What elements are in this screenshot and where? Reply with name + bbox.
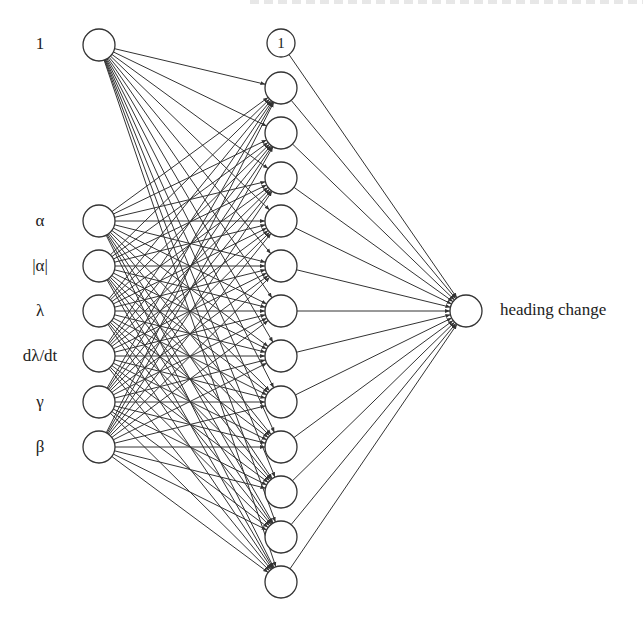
hidden-node [265,72,297,104]
edge-input-hidden [112,97,268,211]
output-label: heading change [500,300,606,320]
edge-hidden-output [294,187,453,301]
hidden-node [265,117,297,149]
input-bias-label: 1 [0,34,80,54]
output-node [450,295,482,327]
edge-hidden-output [297,270,451,307]
edge-hidden-output [297,315,451,352]
edge-hidden-output [293,144,455,300]
edge-input-hidden [108,101,272,343]
hidden-node [265,566,297,598]
input-label: γ [0,392,80,412]
input-label: |α| [0,256,80,276]
hidden-node [265,162,297,194]
edge-hidden-output [291,100,456,298]
input-label: β [0,437,80,457]
hidden-node [265,386,297,418]
edge-hidden-output [290,324,457,569]
edge-hidden-output [294,320,453,437]
input-node [83,386,115,418]
input-node [83,250,115,282]
input-node [83,431,115,463]
edge-input-hidden [108,58,272,298]
input-label: α [0,211,80,231]
hidden-node [265,476,297,508]
hidden-node [265,340,297,372]
edge-hidden-output [291,323,456,524]
edge-input-hidden [106,102,274,432]
edge-input-hidden [106,59,273,387]
edge-input-hidden [106,60,275,433]
input-node [83,340,115,372]
hidden-node [265,431,297,463]
input-label: λ [0,301,80,321]
hidden-bias-label: 1 [267,33,295,53]
input-node [83,295,115,327]
input-node [83,205,115,237]
edge-input-hidden [115,49,266,85]
hidden-node [265,521,297,553]
edge-input-hidden [107,59,273,342]
edge-input-hidden [113,454,266,530]
edge-hidden-output [292,322,454,481]
hidden-node [265,205,297,237]
hidden-node [265,250,297,282]
input-bias-node [83,29,115,61]
edge-hidden-output [289,55,457,298]
input-label: dλ/dt [0,346,80,366]
hidden-node [265,295,297,327]
edge-input-hidden [108,191,272,433]
